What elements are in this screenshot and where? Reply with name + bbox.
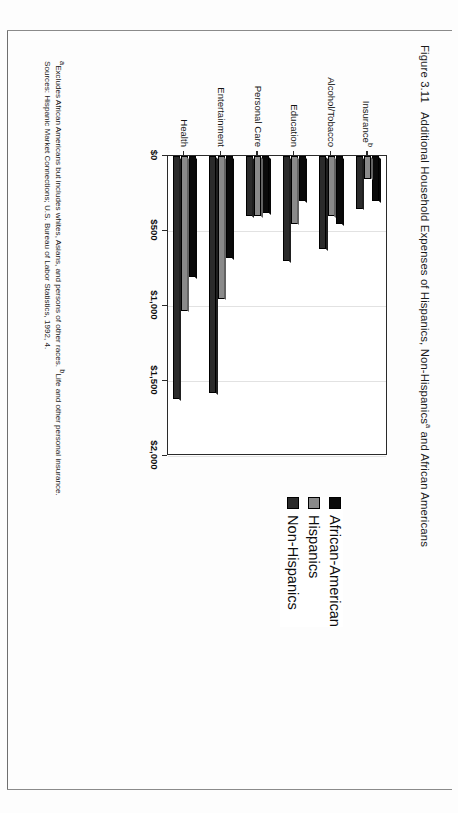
bar-group bbox=[166, 156, 203, 454]
chart: InsurancebAlcohol/TobaccoEducationPerson… bbox=[97, 61, 387, 481]
category-axis-label: Insuranceb bbox=[361, 100, 374, 146]
bar-group bbox=[349, 156, 386, 454]
bar-group bbox=[239, 156, 276, 454]
value-axis-tick bbox=[162, 305, 167, 306]
bar bbox=[299, 156, 306, 454]
bar-body bbox=[356, 156, 363, 209]
category-axis-label: Health bbox=[179, 119, 190, 147]
bar bbox=[356, 156, 363, 454]
bar bbox=[372, 156, 379, 454]
value-axis-tick bbox=[162, 230, 167, 231]
bar-body bbox=[336, 156, 343, 224]
figure-footnotes: aExcludes African Americans but includes… bbox=[41, 61, 67, 496]
category-label-superscript: b bbox=[365, 142, 374, 146]
category-axis-label: Personal Care bbox=[252, 85, 263, 146]
figure-title-part2: and African Americans bbox=[419, 428, 431, 547]
figure-number: Figure 3.11 bbox=[419, 45, 431, 103]
footnote-a-marker: a bbox=[58, 61, 67, 65]
bar-body bbox=[189, 156, 196, 277]
bar bbox=[218, 156, 225, 454]
page-bottom-rule bbox=[7, 789, 452, 790]
category-axis-tick bbox=[330, 151, 331, 156]
figure-caption: Figure 3.11Additional Household Expenses… bbox=[419, 45, 433, 547]
category-axis-label: Alcohol/Tobacco bbox=[326, 77, 337, 147]
bar bbox=[328, 156, 335, 454]
bar-body bbox=[283, 156, 290, 261]
bar-body bbox=[291, 156, 298, 224]
bar-body bbox=[262, 156, 269, 213]
category-axis-tick bbox=[366, 151, 367, 156]
bar bbox=[181, 156, 188, 454]
bar-body bbox=[372, 156, 379, 201]
category-axis-label: Education bbox=[289, 104, 300, 147]
page-left-rule bbox=[7, 30, 8, 790]
bar-body bbox=[246, 156, 253, 216]
bar bbox=[226, 156, 233, 454]
bar-group bbox=[313, 156, 350, 454]
category-axis-tick bbox=[293, 151, 294, 156]
legend-item: African-American bbox=[327, 497, 343, 627]
value-axis-label: $500 bbox=[149, 219, 160, 240]
chart-legend: African-AmericanHispanicsNon-Hispanics bbox=[280, 497, 343, 627]
bar bbox=[319, 156, 326, 454]
bar bbox=[336, 156, 343, 454]
bar-body bbox=[328, 156, 335, 216]
scanned-page: Figure 3.11Additional Household Expenses… bbox=[0, 0, 458, 813]
footnote-a: aExcludes African Americans but includes… bbox=[53, 61, 67, 496]
category-axis-tick bbox=[256, 151, 257, 156]
legend-item: Hispanics bbox=[306, 497, 322, 627]
bar-body bbox=[173, 156, 180, 399]
bar bbox=[262, 156, 269, 454]
value-axis-tick bbox=[162, 155, 167, 156]
value-axis-label: $1,500 bbox=[149, 365, 160, 394]
bar-group bbox=[276, 156, 313, 454]
legend-swatch-icon bbox=[329, 497, 341, 509]
legend-item: Non-Hispanics bbox=[285, 497, 301, 627]
legend-label: African-American bbox=[327, 515, 343, 627]
value-axis-label: $2,000 bbox=[149, 440, 160, 469]
legend-swatch-icon bbox=[308, 497, 320, 509]
bar-group bbox=[203, 156, 240, 454]
bar-body bbox=[209, 156, 216, 393]
bar-body bbox=[319, 156, 326, 249]
plot-area: InsurancebAlcohol/TobaccoEducationPerson… bbox=[167, 155, 387, 455]
legend-label: Hispanics bbox=[306, 515, 322, 578]
bar bbox=[209, 156, 216, 454]
figure-canvas: Figure 3.11Additional Household Expenses… bbox=[19, 27, 439, 787]
bar bbox=[291, 156, 298, 454]
bar bbox=[173, 156, 180, 454]
category-axis-tick bbox=[183, 151, 184, 156]
value-axis-label: $1,000 bbox=[149, 290, 160, 319]
value-axis-label: $0 bbox=[149, 149, 160, 160]
bar bbox=[254, 156, 261, 454]
bar-body bbox=[299, 156, 306, 201]
bar bbox=[364, 156, 371, 454]
bar-body bbox=[218, 156, 225, 299]
legend-swatch-icon bbox=[287, 497, 299, 509]
footnote-b-text: Life and other personal insurance. bbox=[54, 373, 63, 495]
bar bbox=[189, 156, 196, 454]
category-axis-tick bbox=[220, 151, 221, 156]
bar bbox=[246, 156, 253, 454]
figure-title-part1: Additional Household Expenses of Hispani… bbox=[419, 111, 431, 423]
value-axis-tick bbox=[162, 455, 167, 456]
bar-body bbox=[364, 156, 371, 179]
bar-body bbox=[226, 156, 233, 258]
value-axis-tick bbox=[162, 380, 167, 381]
footnote-a-text: Excludes African Americans but includes … bbox=[54, 65, 63, 369]
bar bbox=[283, 156, 290, 454]
bar-body bbox=[181, 156, 188, 311]
gridline bbox=[168, 456, 386, 457]
category-axis-label: Entertainment bbox=[216, 87, 227, 147]
legend-label: Non-Hispanics bbox=[285, 515, 301, 610]
bar-body bbox=[254, 156, 261, 216]
footnote-sources: Sources: Hispanic Market Connections; U.… bbox=[41, 61, 52, 496]
